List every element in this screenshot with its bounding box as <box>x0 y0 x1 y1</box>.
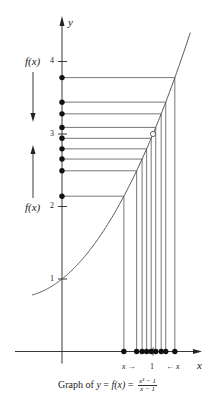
caption-denominator: x − 1 <box>138 386 157 393</box>
hole-open-circle-icon <box>150 131 155 136</box>
x-axis-label: x <box>197 360 202 371</box>
figure-caption: Graph of y = f(x) = x³ − 1x − 1 <box>0 378 215 394</box>
caption-eq2: = <box>125 379 136 390</box>
y-axis-value-dot-5 <box>59 125 64 130</box>
y-axis-value-dot-8 <box>59 75 64 80</box>
x-approach-from-left-label: x → <box>122 363 136 371</box>
x-axis-sample-dot-0 <box>121 349 126 354</box>
x-axis-sample-dot-5 <box>153 349 158 354</box>
caption-eq1: = <box>101 379 112 390</box>
y-tick-label-4: 4 <box>50 57 54 65</box>
y-tick-label-2: 2 <box>50 202 54 210</box>
x-axis-sample-dot-1 <box>134 349 139 354</box>
function-curve <box>32 33 190 295</box>
y-axis-value-dot-3 <box>59 146 64 151</box>
y-axis-value-dot-4 <box>59 136 64 141</box>
y-axis-arrow-icon <box>60 16 65 26</box>
caption-fx: f(x) <box>111 379 125 390</box>
arrow-up-icon <box>31 145 36 154</box>
y-axis-value-dot-6 <box>59 111 64 116</box>
y-tick-label-1: 1 <box>50 275 54 283</box>
caption-prefix: Graph of <box>58 379 96 390</box>
x-axis-sample-dot-8 <box>172 349 177 354</box>
caption-fraction: x³ − 1x − 1 <box>138 378 157 394</box>
y-axis-value-dot-2 <box>59 156 64 161</box>
fx-lower-label: f(x) <box>25 202 40 213</box>
y-tick-label-3: 3 <box>50 130 54 138</box>
y-axis-label: y <box>68 17 73 28</box>
x-axis-sample-dot-7 <box>163 349 168 354</box>
y-axis-value-dot-1 <box>59 168 64 173</box>
limit-graph-figure: y x 4 3 2 1 1 x → ← x f(x) f(x) Graph of… <box>0 0 215 412</box>
x-approach-from-right-label: ← x <box>166 363 180 371</box>
arrow-down-icon <box>31 113 36 122</box>
y-axis-value-dot-0 <box>59 193 64 198</box>
y-axis-value-dot-7 <box>59 99 64 104</box>
x-axis-arrow-icon <box>193 349 202 354</box>
x-tick-label-1: 1 <box>150 363 154 371</box>
fx-upper-label: f(x) <box>25 56 40 67</box>
